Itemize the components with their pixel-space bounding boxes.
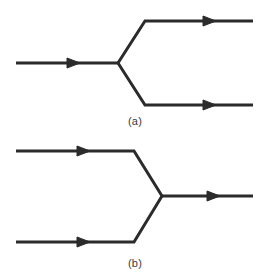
panel-a-edge-group: [16, 21, 253, 105]
incoming-lower-line: [16, 196, 162, 242]
outgoing-upper-line: [118, 21, 253, 63]
panel-b-caption: (b): [0, 257, 270, 269]
incoming-upper-arrowhead-icon: [77, 146, 90, 156]
outgoing-upper-arrowhead-icon: [203, 16, 216, 26]
outgoing-lower-arrowhead-icon: [203, 100, 216, 110]
figure-root: (a) (b): [0, 0, 270, 279]
incoming-arrowhead-icon: [67, 58, 80, 68]
incoming-lower-arrowhead-icon: [77, 237, 90, 247]
diagram-panel-a: (a): [0, 0, 270, 139]
incoming-upper-line: [16, 151, 162, 196]
diagram-panel-b: (b): [0, 139, 270, 279]
outgoing-lower-line: [118, 63, 253, 105]
panel-a-caption: (a): [0, 115, 270, 127]
outgoing-arrowhead-icon: [207, 191, 220, 201]
